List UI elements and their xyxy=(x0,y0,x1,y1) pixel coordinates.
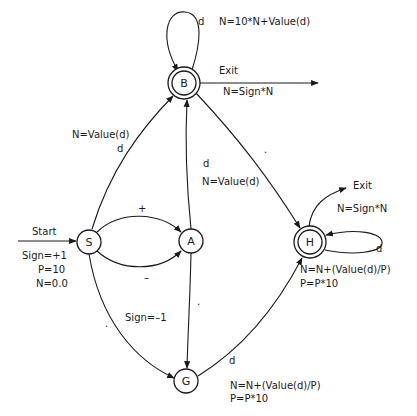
node-h: H xyxy=(294,226,326,258)
node-a: A xyxy=(179,229,203,253)
start-action-n: N=0.0 xyxy=(36,278,68,289)
h-loop-action-line1: N=N+(Value(d)/P) xyxy=(300,264,391,275)
h-exit-action-label: N=Sign*N xyxy=(337,203,387,214)
g-to-h-input-label: d xyxy=(229,355,235,366)
start-action-sign: Sign=+1 xyxy=(22,250,67,261)
g-to-h-action-line1: N=N+(Value(d)/P) xyxy=(230,380,321,391)
h-loop-input-label: d xyxy=(376,243,382,254)
s-to-a-minus-edge xyxy=(97,251,181,267)
node-s: S xyxy=(77,230,101,254)
b-exit-action-label: N=Sign*N xyxy=(223,86,273,97)
s-to-b-edge xyxy=(92,96,173,229)
a-to-g-label: . xyxy=(197,296,200,307)
node-g-label: G xyxy=(182,375,191,388)
b-loop-action-label: N=10*N+Value(d) xyxy=(219,16,310,27)
h-exit-input-label: Exit xyxy=(353,180,372,191)
start-label: Start xyxy=(32,226,57,237)
start-action-p: P=10 xyxy=(38,264,65,275)
node-s-label: S xyxy=(86,236,93,249)
sign-minus-action-label: Sign=–1 xyxy=(125,312,167,323)
b-loop-input-label: d xyxy=(198,16,204,27)
b-to-h-edge xyxy=(196,93,300,228)
b-self-loop-edge xyxy=(167,12,199,71)
state-diagram: B S A G H Start Sign=+1 P=10 N=0.0 d N=1… xyxy=(0,0,417,416)
s-to-b-input-label: d xyxy=(117,143,123,154)
node-h-label: H xyxy=(306,236,314,249)
h-loop-action-line2: P=P*10 xyxy=(300,278,338,289)
a-to-b-edge xyxy=(186,100,191,229)
h-self-loop-edge xyxy=(325,232,382,253)
node-g: G xyxy=(174,369,198,393)
s-to-b-action-label: N=Value(d) xyxy=(72,129,130,140)
a-to-g-edge xyxy=(187,253,191,368)
b-exit-input-label: Exit xyxy=(219,65,238,76)
b-to-h-label: . xyxy=(264,144,267,155)
a-to-b-action-label: N=Value(d) xyxy=(202,176,260,187)
s-to-a-plus-label: + xyxy=(138,203,146,214)
a-to-b-input-label: d xyxy=(203,158,209,169)
node-b: B xyxy=(168,67,200,99)
s-to-g-label: . xyxy=(105,318,108,329)
s-to-a-minus-label: – xyxy=(144,272,149,283)
g-to-h-edge xyxy=(198,258,302,376)
s-to-a-plus-edge xyxy=(97,216,181,232)
node-b-label: B xyxy=(180,77,188,90)
node-a-label: A xyxy=(187,235,195,248)
g-to-h-action-line2: P=P*10 xyxy=(230,393,268,404)
